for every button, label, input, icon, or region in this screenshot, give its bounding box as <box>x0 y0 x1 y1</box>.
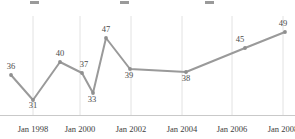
x-axis-tick-label: Jan 2006 <box>217 124 247 134</box>
data-point-label: 39 <box>125 71 134 80</box>
data-point-label: 37 <box>80 60 89 69</box>
data-point <box>80 71 84 75</box>
data-point-label: 33 <box>88 95 97 104</box>
x-axis-tick-label: Jan 1998 <box>18 124 48 134</box>
x-axis-tick-label: Jan 2004 <box>167 124 197 134</box>
data-point <box>9 73 13 77</box>
data-point-label: 38 <box>182 74 191 83</box>
line-chart: 36 31 40 37 33 47 39 38 45 49 Jan 1998 J… <box>0 0 295 139</box>
plot-area <box>0 0 295 139</box>
data-point-label: 47 <box>102 25 111 34</box>
data-point <box>283 30 287 34</box>
data-point <box>104 36 108 40</box>
gridlines <box>33 16 283 115</box>
data-point <box>243 46 247 50</box>
x-axis-tick-label: Jan 2008 <box>268 124 295 134</box>
data-point-label: 40 <box>56 49 65 58</box>
data-point-label: 31 <box>29 101 38 110</box>
x-axis-tick-label: Jan 2002 <box>116 124 146 134</box>
data-point-label: 36 <box>7 62 16 71</box>
data-point-label: 49 <box>279 19 288 28</box>
series-markers <box>9 30 287 102</box>
data-point-label: 45 <box>236 35 245 44</box>
data-point <box>58 60 62 64</box>
x-axis-tick-label: Jan 2000 <box>65 124 95 134</box>
